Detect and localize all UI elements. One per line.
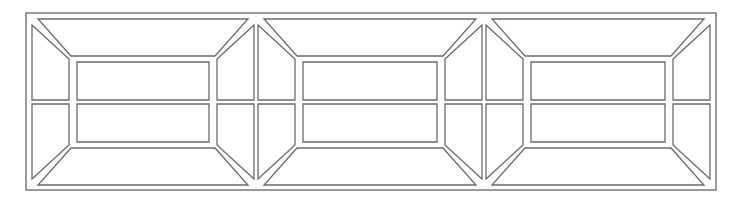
center-lower-panel (77, 104, 209, 142)
top-bevel-panel (492, 19, 704, 56)
right-lower-panel (445, 104, 482, 179)
left-lower-panel (258, 104, 295, 179)
left-upper-panel (258, 25, 295, 100)
top-bevel-panel (264, 19, 476, 56)
left-upper-panel (486, 25, 523, 100)
right-lower-panel (217, 104, 254, 179)
center-lower-panel (303, 104, 437, 142)
panel-drawing (0, 0, 752, 200)
right-upper-panel (673, 25, 710, 100)
center-upper-panel (303, 62, 437, 100)
right-lower-panel (673, 104, 710, 179)
bottom-bevel-panel (492, 148, 704, 185)
left-lower-panel (486, 104, 523, 179)
bottom-bevel-panel (38, 148, 248, 185)
panel-2 (258, 19, 482, 185)
panels-group (32, 19, 710, 185)
panel-1 (32, 19, 254, 185)
bottom-bevel-panel (264, 148, 476, 185)
panel-3 (486, 19, 710, 185)
left-upper-panel (32, 25, 69, 100)
right-upper-panel (217, 25, 254, 100)
center-upper-panel (531, 62, 665, 100)
center-lower-panel (531, 104, 665, 142)
top-bevel-panel (38, 19, 248, 56)
right-upper-panel (445, 25, 482, 100)
left-lower-panel (32, 104, 69, 179)
outer-frame (26, 13, 716, 190)
center-upper-panel (77, 62, 209, 100)
